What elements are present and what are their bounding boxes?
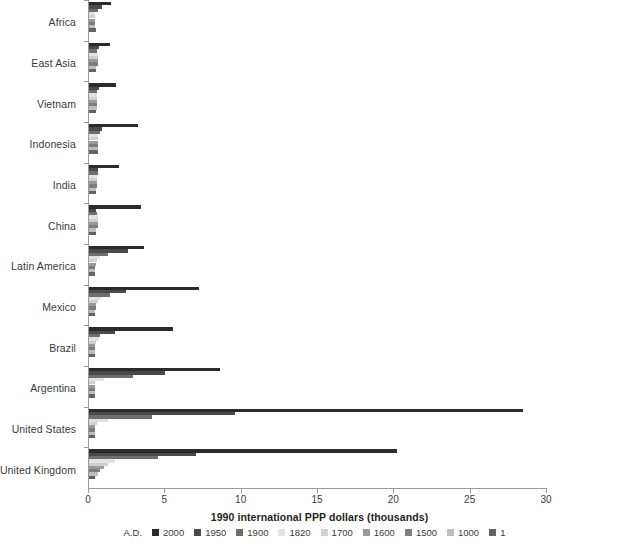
legend: A.D. 200019501900182017001600150010001 — [0, 527, 639, 538]
x-axis-tick-label: 25 — [464, 494, 475, 505]
bottom-caption — [6, 546, 406, 554]
legend-label: 1000 — [458, 527, 479, 538]
legend-title: A.D. — [124, 527, 142, 538]
bar — [89, 69, 96, 72]
y-axis-tick — [84, 0, 88, 1]
bar — [89, 191, 96, 194]
legend-item[interactable]: 1700 — [321, 527, 353, 538]
legend-item[interactable]: 1820 — [278, 527, 310, 538]
legend-label: 1600 — [374, 527, 395, 538]
legend-swatch — [278, 529, 285, 536]
bar-group — [89, 124, 547, 154]
y-axis-category-label: Africa — [49, 16, 76, 28]
y-axis-tick — [84, 244, 88, 245]
bar — [89, 205, 141, 208]
x-axis-tick — [241, 489, 242, 493]
y-axis-tick — [84, 407, 88, 408]
bar-group — [89, 409, 547, 439]
x-axis-tick — [317, 489, 318, 493]
y-axis-category-label: United States — [12, 423, 76, 435]
axis-and-bars: 051015202530 — [88, 0, 546, 488]
y-axis-tick — [84, 366, 88, 367]
legend-swatch — [152, 529, 159, 536]
y-axis-category-label: Indonesia — [30, 138, 76, 150]
bar-group — [89, 43, 547, 73]
legend-item[interactable]: 1600 — [363, 527, 395, 538]
y-axis-tick — [84, 203, 88, 204]
y-axis-tick — [84, 41, 88, 42]
legend-label: 1500 — [416, 527, 437, 538]
bar — [89, 110, 96, 113]
x-axis-tick-label: 20 — [388, 494, 399, 505]
bar-group — [89, 449, 547, 479]
legend-swatch — [363, 529, 370, 536]
legend-swatch — [447, 529, 454, 536]
bar-group — [89, 205, 547, 235]
y-axis-tick — [84, 81, 88, 82]
y-axis-category-label: Mexico — [42, 301, 76, 313]
legend-item[interactable]: 1500 — [405, 527, 437, 538]
bar-group — [89, 246, 547, 276]
x-axis-tick — [164, 489, 165, 493]
bar-chart: AfricaEast AsiaVietnamIndonesiaIndiaChin… — [0, 0, 639, 554]
legend-label: 1900 — [247, 527, 268, 538]
y-axis-category-label: China — [48, 220, 76, 232]
x-axis-title: 1990 international PPP dollars (thousand… — [0, 511, 639, 523]
y-axis-category-label: Brazil — [49, 342, 76, 354]
y-axis-category-label: United Kingdom — [0, 464, 76, 476]
legend-swatch — [405, 529, 412, 536]
legend-swatch — [194, 529, 201, 536]
y-axis-tick — [84, 285, 88, 286]
bar — [89, 313, 95, 316]
y-axis-tick — [84, 447, 88, 448]
y-axis-category-label: India — [53, 179, 76, 191]
legend-label: 1700 — [332, 527, 353, 538]
y-axis-category-label: Vietnam — [37, 98, 76, 110]
legend-swatch — [321, 529, 328, 536]
x-axis-tick-label: 15 — [311, 494, 322, 505]
bar-group — [89, 2, 547, 32]
legend-label: 1 — [500, 527, 505, 538]
legend-item[interactable]: 1 — [489, 527, 505, 538]
y-axis-tick — [84, 325, 88, 326]
legend-label: 1950 — [205, 527, 226, 538]
x-axis-tick-label: 5 — [162, 494, 168, 505]
bar — [89, 394, 95, 397]
legend-item[interactable]: 1000 — [447, 527, 479, 538]
bar — [89, 354, 95, 357]
bar — [89, 435, 95, 438]
y-axis-category-labels: AfricaEast AsiaVietnamIndonesiaIndiaChin… — [0, 0, 84, 488]
y-axis-category-label: Argentina — [30, 382, 76, 394]
x-axis-tick — [88, 489, 89, 493]
legend-item[interactable]: 1950 — [194, 527, 226, 538]
bar — [89, 28, 96, 31]
bar-group — [89, 165, 547, 195]
y-axis-category-label: Latin America — [11, 260, 76, 272]
x-axis-tick-label: 30 — [540, 494, 551, 505]
bar-group — [89, 287, 547, 317]
legend-item[interactable]: 1900 — [236, 527, 268, 538]
bar — [89, 476, 95, 479]
x-axis-tick — [470, 489, 471, 493]
x-axis-tick — [546, 489, 547, 493]
bar-group — [89, 368, 547, 398]
legend-swatch — [489, 529, 496, 536]
plot-area: AfricaEast AsiaVietnamIndonesiaIndiaChin… — [0, 0, 639, 500]
y-axis-tick — [84, 163, 88, 164]
bar-group — [89, 327, 547, 357]
legend-swatch — [236, 529, 243, 536]
bar — [89, 150, 98, 153]
legend-label: 2000 — [163, 527, 184, 538]
bar — [89, 272, 95, 275]
x-axis-tick-label: 10 — [235, 494, 246, 505]
legend-label: 1820 — [289, 527, 310, 538]
y-axis-tick — [84, 122, 88, 123]
y-axis-category-label: East Asia — [31, 57, 76, 69]
bar — [89, 232, 96, 235]
x-axis-tick-label: 0 — [85, 494, 91, 505]
x-axis-tick — [393, 489, 394, 493]
bar-group — [89, 83, 547, 113]
legend-item[interactable]: 2000 — [152, 527, 184, 538]
